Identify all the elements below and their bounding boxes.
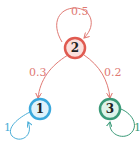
edge-label-2-3: 0.2 [104, 66, 122, 79]
node-label-3: 3 [106, 102, 114, 116]
edge-label-3-3: 1 [134, 121, 140, 134]
edge-label-1-1: 1 [4, 121, 11, 134]
node-2: 2 [65, 38, 85, 58]
node-3: 3 [100, 99, 120, 119]
edge-label-2-2: 0.5 [71, 5, 89, 18]
node-label-1: 1 [36, 102, 44, 116]
node-label-2: 2 [71, 41, 79, 55]
node-1: 1 [30, 99, 50, 119]
markov-chain-diagram: 0.5 0.3 0.2 1 1 2 1 3 [0, 0, 140, 143]
edge-1-to-1 [10, 112, 30, 139]
edge-label-2-1: 0.3 [29, 66, 47, 79]
